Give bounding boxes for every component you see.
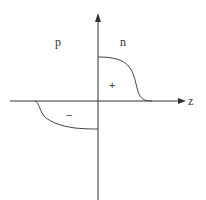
- n-region-label: n: [120, 35, 126, 49]
- vertical-axis-arrow-icon: [95, 13, 101, 22]
- positive-charge-curve: [98, 57, 152, 101]
- pn-junction-charge-diagram: p n z + −: [0, 0, 206, 200]
- horizontal-axis-arrow-icon: [178, 98, 186, 104]
- vertical-axis: [95, 13, 101, 200]
- positive-charge-sign: +: [109, 79, 115, 91]
- p-region-label: p: [55, 35, 61, 49]
- z-axis-label: z: [188, 94, 193, 108]
- negative-charge-sign: −: [66, 109, 72, 121]
